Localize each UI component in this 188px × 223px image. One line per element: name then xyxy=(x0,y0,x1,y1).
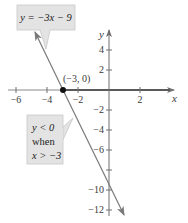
x-intercept-point xyxy=(60,87,66,93)
y-axis-label: y xyxy=(98,28,104,40)
point-label: (−3, 0) xyxy=(63,73,90,85)
y-tick-label: −2 xyxy=(93,104,104,115)
y-tick-label: −12 xyxy=(88,204,104,215)
condition-line-1: y < 0 xyxy=(31,122,55,133)
x-axis-label: x xyxy=(171,92,177,104)
condition-line-3: x > −3 xyxy=(31,150,61,161)
condition-line-2: when xyxy=(32,136,55,147)
y-tick-label: 4 xyxy=(99,44,104,55)
x-tick-label: 2 xyxy=(138,94,143,105)
chart: −6 −4 −2 2 4 2 −2 −4 −6 −10 −12 x y (−3,… xyxy=(0,0,188,223)
function-line xyxy=(35,32,63,90)
equation-callout: y = −3x − 9 xyxy=(17,5,75,49)
x-tick-label: −2 xyxy=(73,94,84,105)
condition-callout: y < 0 when x > −3 xyxy=(27,115,73,164)
x-tick-label: −6 xyxy=(11,94,22,105)
y-tick-label: −4 xyxy=(93,124,104,135)
y-tick-label: 2 xyxy=(99,64,104,75)
y-tick-label: −6 xyxy=(93,144,104,155)
y-tick-label: −10 xyxy=(88,184,104,195)
x-tick-label: −4 xyxy=(42,94,53,105)
equation-text: y = −3x − 9 xyxy=(19,12,72,23)
